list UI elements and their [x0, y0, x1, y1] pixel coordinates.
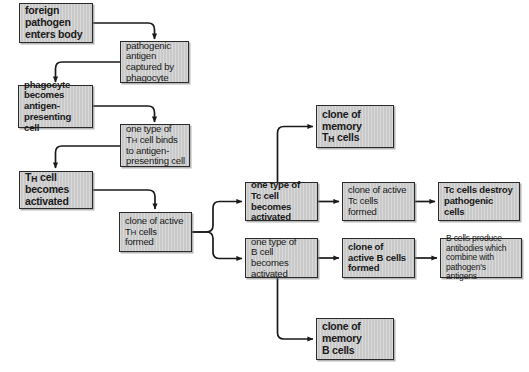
- node-tc-cell-becomes-activated: one type ofTc cell becomesactivated: [245, 182, 318, 221]
- node-tc-cells-destroy-pathogenic-cells: Tc cells destroypathogeniccells: [438, 182, 520, 221]
- node-clone-of-memory-b-cells: clone ofmemoryB cells: [316, 318, 394, 360]
- flowchart-canvas: foreignpathogenenters body pathogenicant…: [0, 0, 529, 372]
- connector-thbinds-to-thactivated: [56, 146, 121, 168]
- node-label: clone ofmemoryTH cells: [322, 109, 389, 144]
- node-label: clone of activeTc cellsformed: [348, 185, 410, 217]
- node-clone-of-active-tc-cells: clone of activeTc cellsformed: [342, 182, 415, 221]
- node-foreign-pathogen-enters-body: foreignpathogenenters body: [19, 3, 93, 43]
- node-label: TH cellbecomesactivated: [25, 172, 88, 207]
- node-label: clone of activeTH cellsformed: [125, 216, 187, 248]
- node-label: foreignpathogenenters body: [25, 5, 88, 40]
- node-label: phagocytebecomesantigen-presenting cell: [24, 80, 88, 134]
- node-label: clone ofmemoryB cells: [322, 321, 389, 356]
- connector-pathogen-to-antigen: [93, 23, 155, 39]
- connector-thactivated-to-clonetha: [93, 190, 155, 209]
- connector-clonetha-to-tc: [192, 202, 242, 233]
- node-th-cell-binds-to-apc: one type ofTH cell bindsto antigen-prese…: [120, 124, 190, 167]
- node-clone-of-active-th-cells: clone of activeTH cellsformed: [119, 212, 192, 252]
- node-label: one type ofTH cell bindsto antigen-prese…: [126, 124, 185, 167]
- node-clone-of-memory-th-cells: clone ofmemoryTH cells: [316, 105, 394, 148]
- node-label: clone ofactive B cellsformed: [348, 242, 410, 274]
- connector-b-to-memoryb: [278, 278, 314, 339]
- node-clone-of-active-b-cells: clone ofactive B cellsformed: [342, 238, 415, 278]
- node-label: one type ofB cell becomesactivated: [251, 237, 313, 280]
- node-phagocyte-becomes-apc: phagocytebecomesantigen-presenting cell: [18, 85, 93, 128]
- node-label: one type ofTc cell becomesactivated: [251, 180, 313, 223]
- node-pathogenic-antigen-captured: pathogenicantigencaptured byphagocyte: [120, 41, 189, 83]
- connector-clonetha-to-b: [192, 232, 242, 259]
- node-label: B cells produceantibodies whichcombine w…: [446, 234, 517, 282]
- node-b-cells-produce-antibodies: B cells produceantibodies whichcombine w…: [440, 238, 522, 278]
- node-b-cell-becomes-activated: one type ofB cell becomesactivated: [245, 238, 318, 278]
- connector-tc-to-memoryth: [278, 127, 314, 183]
- connector-phagocyte-to-thbinds: [93, 106, 155, 122]
- node-label: Tc cells destroypathogeniccells: [444, 185, 515, 217]
- node-label: pathogenicantigencaptured byphagocyte: [126, 41, 184, 84]
- node-th-cell-becomes-activated: TH cellbecomesactivated: [19, 171, 93, 209]
